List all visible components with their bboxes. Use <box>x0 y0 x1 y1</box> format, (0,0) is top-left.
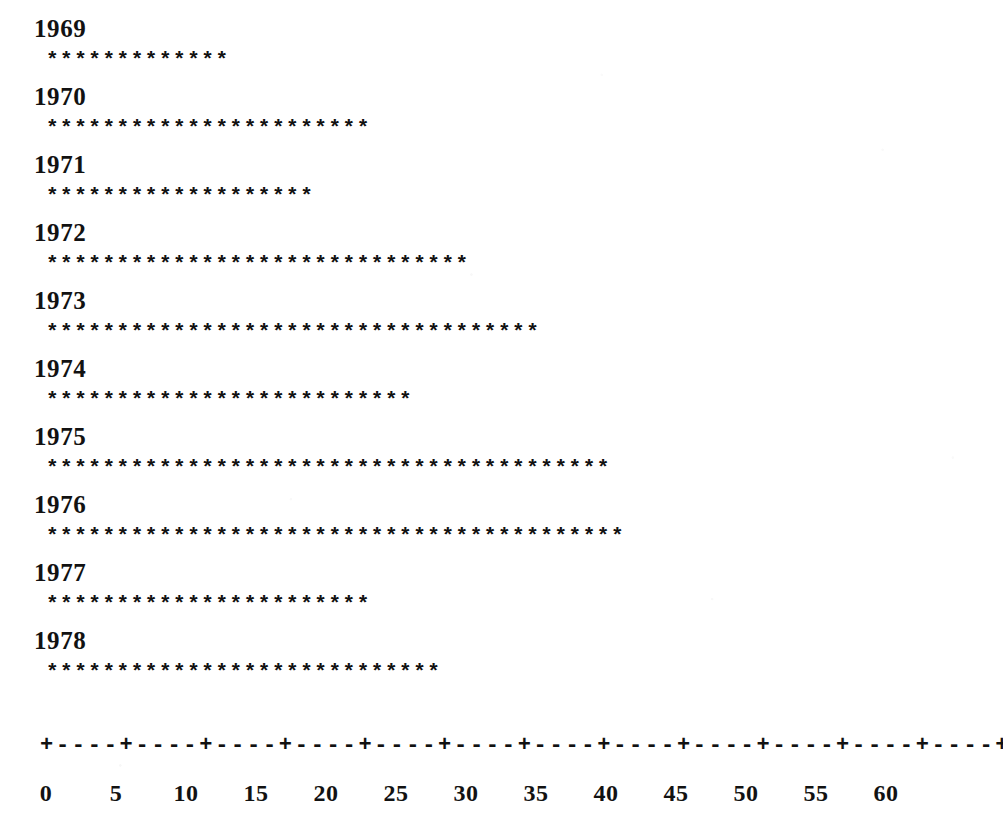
axis-rule: +----+----+----+----+----+----+----+----… <box>40 735 980 757</box>
axis-tick-label: 5 <box>110 781 123 805</box>
axis-tick-label: 55 <box>804 781 829 805</box>
row-year-label: 1978 <box>34 628 441 653</box>
row-year-label: 1973 <box>34 288 540 313</box>
histogram-row: 1971 ******************* <box>34 152 314 207</box>
histogram-row: 1973 *********************************** <box>34 288 540 343</box>
row-asterisk-bar: **************************************** <box>46 458 611 479</box>
histogram-row: 1969 ************* <box>34 16 230 71</box>
x-axis: +----+----+----+----+----+----+----+----… <box>40 735 980 815</box>
histogram-row: 1976 ***********************************… <box>34 492 625 547</box>
axis-tick-label: 40 <box>594 781 619 805</box>
histogram-row: 1970 *********************** <box>34 84 371 139</box>
row-asterisk-bar: *********************** <box>46 118 371 139</box>
row-year-label: 1972 <box>34 220 470 245</box>
axis-tick-label: 10 <box>174 781 199 805</box>
axis-tick-label: 45 <box>664 781 689 805</box>
row-asterisk-bar: **************************** <box>46 662 441 683</box>
ascii-histogram-chart: 1969 ************* 1970 ****************… <box>0 0 1003 832</box>
axis-tick-label: 0 <box>40 781 53 805</box>
row-asterisk-bar: ******************* <box>46 186 314 207</box>
row-year-label: 1974 <box>34 356 413 381</box>
row-year-label: 1970 <box>34 84 371 109</box>
axis-tick-label: 30 <box>454 781 479 805</box>
row-asterisk-bar: *********************************** <box>46 322 540 343</box>
histogram-row: 1972 ****************************** <box>34 220 470 275</box>
histogram-row: 1975 ***********************************… <box>34 424 611 479</box>
row-year-label: 1975 <box>34 424 611 449</box>
axis-tick-label: 15 <box>244 781 269 805</box>
axis-tick-label: 50 <box>734 781 759 805</box>
histogram-row: 1974 ************************** <box>34 356 413 411</box>
row-asterisk-bar: ****************************************… <box>46 526 625 547</box>
row-asterisk-bar: ************************** <box>46 390 413 411</box>
histogram-row: 1978 **************************** <box>34 628 441 683</box>
axis-tick-label: 60 <box>874 781 899 805</box>
row-asterisk-bar: ************* <box>46 50 230 71</box>
axis-tick-label: 35 <box>524 781 549 805</box>
axis-tick-label-group: 0 5 10 15 20 25 30 35 40 45 50 55 60 <box>40 781 980 815</box>
row-asterisk-bar: *********************** <box>46 594 371 615</box>
row-year-label: 1976 <box>34 492 625 517</box>
row-year-label: 1971 <box>34 152 314 177</box>
row-asterisk-bar: ****************************** <box>46 254 470 275</box>
axis-tick-label: 20 <box>314 781 339 805</box>
row-year-label: 1969 <box>34 16 230 41</box>
row-year-label: 1977 <box>34 560 371 585</box>
histogram-row: 1977 *********************** <box>34 560 371 615</box>
axis-tick-label: 25 <box>384 781 409 805</box>
